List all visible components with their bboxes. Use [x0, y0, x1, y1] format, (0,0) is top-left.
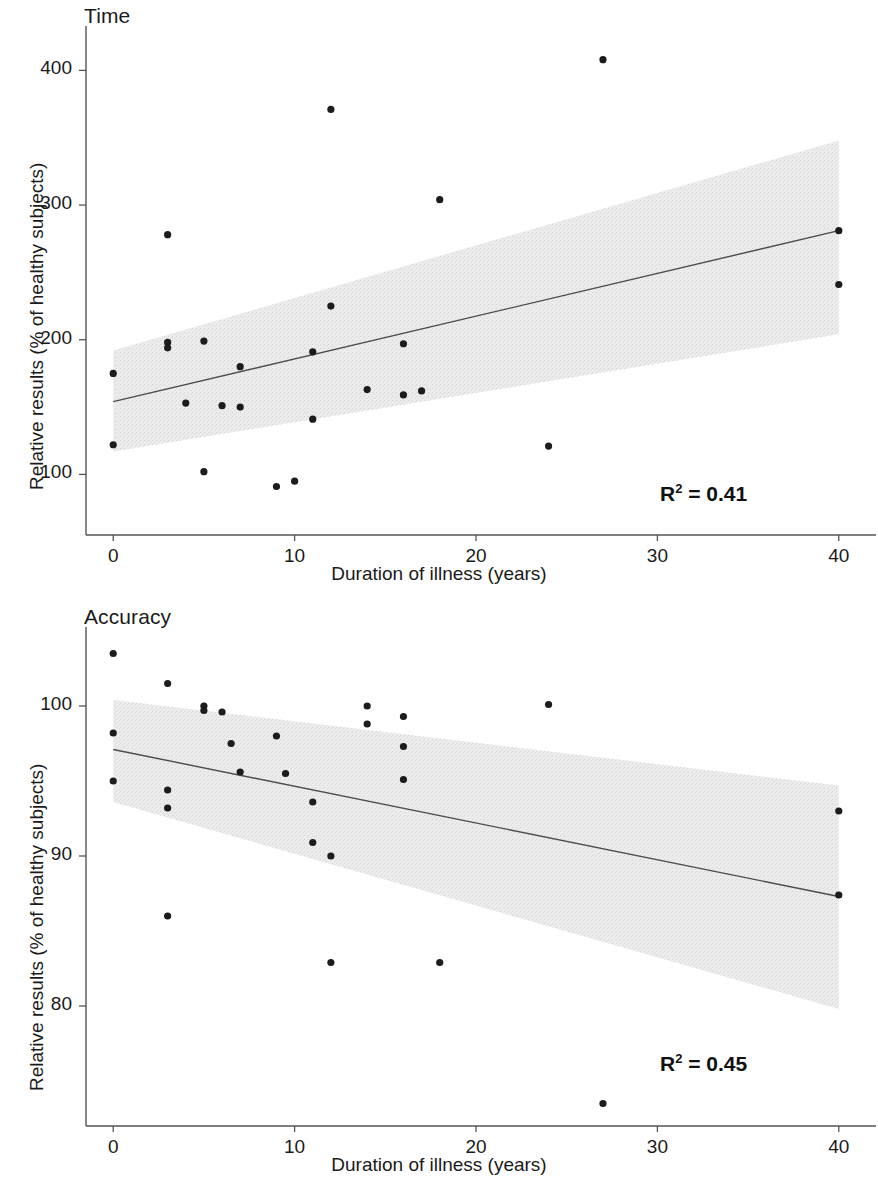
y-tick-label: 200 — [0, 327, 72, 349]
panel-title-time: Time — [84, 4, 130, 28]
x-tick-label: 30 — [627, 1136, 687, 1158]
x-tick-label: 40 — [809, 545, 869, 567]
x-tick-label: 10 — [265, 1136, 325, 1158]
r2-symbol: R — [660, 482, 675, 505]
x-tick-label: 20 — [446, 1136, 506, 1158]
y-tick-label: 400 — [0, 57, 72, 79]
y-tick-label: 100 — [0, 693, 72, 715]
x-tick-label: 20 — [446, 545, 506, 567]
y-tick-label: 80 — [0, 993, 72, 1015]
r2-annotation-accuracy: R2 = 0.45 — [660, 1051, 747, 1076]
y-axis-title-accuracy: Relative results (% of healthy subjects) — [26, 764, 48, 1091]
r2-symbol: R — [660, 1052, 675, 1075]
figure-root: Time R2 = 0.41 Duration of illness (year… — [0, 0, 878, 1182]
panel-title-accuracy: Accuracy — [84, 605, 171, 629]
scatter-plot-accuracy — [0, 591, 878, 1182]
panel-accuracy: Accuracy R2 = 0.45 Duration of illness (… — [0, 591, 878, 1182]
y-tick-label: 100 — [0, 461, 72, 483]
r2-value: = 0.45 — [682, 1052, 747, 1075]
r2-annotation-time: R2 = 0.41 — [660, 481, 747, 506]
y-tick-label: 90 — [0, 843, 72, 865]
x-tick-label: 40 — [809, 1136, 869, 1158]
panel-time: Time R2 = 0.41 Duration of illness (year… — [0, 0, 878, 591]
x-tick-label: 0 — [83, 545, 143, 567]
x-tick-label: 30 — [627, 545, 687, 567]
r2-value: = 0.41 — [682, 482, 747, 505]
y-tick-label: 300 — [0, 192, 72, 214]
x-tick-label: 0 — [83, 1136, 143, 1158]
x-tick-label: 10 — [265, 545, 325, 567]
